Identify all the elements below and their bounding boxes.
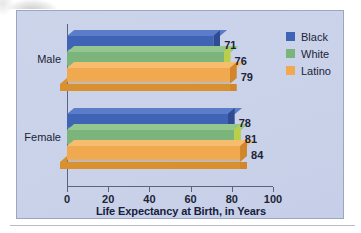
legend-label-black: Black bbox=[301, 31, 328, 43]
x-axis-line bbox=[67, 186, 273, 187]
x-axis-tick-label: 100 bbox=[264, 193, 282, 205]
legend-label-latino: Latino bbox=[301, 65, 331, 77]
bar-base-slab-male bbox=[67, 84, 237, 91]
legend-item-black: Black bbox=[286, 29, 331, 44]
page-horizontal-rule bbox=[10, 225, 355, 226]
x-axis-tick bbox=[108, 187, 109, 192]
x-axis-tick-label: 20 bbox=[102, 193, 114, 205]
x-axis-tick-label: 40 bbox=[143, 193, 155, 205]
legend-item-white: White bbox=[286, 46, 331, 61]
x-axis-tick bbox=[67, 187, 68, 192]
legend-swatch-white bbox=[286, 49, 295, 58]
x-axis-tick-label: 80 bbox=[226, 193, 238, 205]
bar-top-face bbox=[67, 30, 227, 36]
bar-base-slab-female bbox=[67, 162, 247, 169]
scan-artifact-corner bbox=[0, 0, 14, 16]
bar-latino-female bbox=[67, 146, 247, 162]
base-slab-left bbox=[60, 78, 67, 91]
legend-swatch-black bbox=[286, 32, 295, 41]
value-label-latino-female: 84 bbox=[251, 149, 263, 161]
base-slab-left bbox=[60, 156, 67, 169]
legend-label-white: White bbox=[301, 48, 329, 60]
bar-top-face bbox=[67, 46, 238, 52]
value-label-black-female: 78 bbox=[239, 117, 251, 129]
value-label-white-male: 76 bbox=[235, 55, 247, 67]
bar-face bbox=[67, 146, 240, 162]
x-axis-tick bbox=[232, 187, 233, 192]
bar-top-face bbox=[67, 62, 244, 68]
base-slab-front bbox=[60, 84, 230, 91]
x-axis-tick-label: 0 bbox=[64, 193, 70, 205]
category-label-male: Male bbox=[37, 53, 61, 65]
chart-panel: 020406080100Male717679Female788184 Black… bbox=[16, 10, 344, 219]
chart-legend: Black White Latino bbox=[286, 29, 331, 80]
bar-top-face bbox=[67, 124, 248, 130]
value-label-white-female: 81 bbox=[245, 133, 257, 145]
x-axis-tick bbox=[191, 187, 192, 192]
bar-face bbox=[67, 68, 230, 84]
bar-latino-male bbox=[67, 68, 237, 84]
bar-top-face bbox=[67, 108, 242, 114]
scan-artifact-top bbox=[8, 0, 56, 9]
x-axis-tick bbox=[273, 187, 274, 192]
x-axis-tick bbox=[149, 187, 150, 192]
bar-top-face bbox=[67, 140, 254, 146]
base-slab-cap bbox=[240, 162, 247, 169]
category-label-female: Female bbox=[24, 131, 61, 143]
x-axis-tick-label: 60 bbox=[184, 193, 196, 205]
legend-swatch-latino bbox=[286, 66, 295, 75]
value-label-black-male: 71 bbox=[224, 39, 236, 51]
value-label-latino-male: 79 bbox=[241, 71, 253, 83]
x-axis-title: Life Expectancy at Birth, in Years bbox=[17, 205, 345, 217]
base-slab-front bbox=[60, 162, 240, 169]
legend-item-latino: Latino bbox=[286, 63, 331, 78]
base-slab-cap bbox=[230, 84, 237, 91]
